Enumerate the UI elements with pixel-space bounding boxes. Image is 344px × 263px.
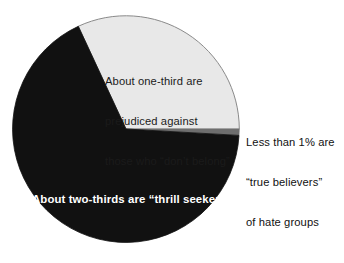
slice-label-true-believers: Less than 1% are “true believers” of hat… [246,110,335,255]
slice-label-true-believers-line-3: of hate groups [246,216,335,229]
slice-label-true-believers-line-2: “true believers” [246,176,335,189]
slice-label-true-believers-line-1: Less than 1% are [246,136,335,149]
slice-label-prejudiced-line-1: About one-third are [105,75,230,88]
slice-label-prejudiced-line-2: prejudiced against [105,115,230,128]
slice-label-thrill-seekers-line-1: About two-thirds are “thrill seekers” [32,193,232,206]
pie-chart-figure: About one-third are prejudiced against t… [0,0,344,263]
slice-label-thrill-seekers: About two-thirds are “thrill seekers” [32,167,232,233]
slice-label-prejudiced-line-3: those who “don’t belong” [105,155,230,168]
